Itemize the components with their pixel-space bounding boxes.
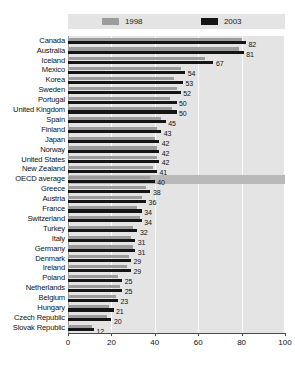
bar-2003 xyxy=(68,279,122,282)
x-tick-label-20: 20 xyxy=(107,338,116,347)
bar-2003 xyxy=(68,299,118,302)
bar-2003 xyxy=(68,249,135,252)
bar-2003 xyxy=(68,209,142,212)
category-label: Japan xyxy=(0,136,65,144)
x-axis-line xyxy=(68,333,285,334)
bar-row: 31 xyxy=(68,234,285,244)
category-label: Poland xyxy=(0,274,65,282)
category-label: OECD average xyxy=(0,175,65,183)
category-label: Sweden xyxy=(0,86,65,94)
bar-2003 xyxy=(68,120,166,123)
category-label: Norway xyxy=(0,146,65,154)
category-label: Austria xyxy=(0,195,65,203)
bar-row: 40 xyxy=(68,175,285,185)
x-tick-0 xyxy=(68,333,69,336)
category-label: Switzerland xyxy=(0,215,65,223)
bar-row: 43 xyxy=(68,125,285,135)
bar-2003 xyxy=(68,269,131,272)
bar-2003 xyxy=(68,328,94,331)
category-axis-labels: CanadaAustraliaIcelandMexicoKoreaSwedenP… xyxy=(0,36,65,333)
category-label: Czech Republic xyxy=(0,314,65,322)
bar-row: 34 xyxy=(68,214,285,224)
bar-2003 xyxy=(68,101,177,104)
x-tick-80 xyxy=(242,333,243,336)
category-label: Ireland xyxy=(0,264,65,272)
bar-row: 23 xyxy=(68,293,285,303)
bar-row: 81 xyxy=(68,46,285,56)
bar-2003 xyxy=(68,289,122,292)
bar-row: 82 xyxy=(68,36,285,46)
bar-row: 42 xyxy=(68,155,285,165)
bar-2003 xyxy=(68,41,246,44)
bar-row: 50 xyxy=(68,95,285,105)
bar-row: 38 xyxy=(68,185,285,195)
bar-row: 67 xyxy=(68,56,285,66)
category-label: Canada xyxy=(0,37,65,45)
bar-chart: 19982003 8281675453525050454342424241403… xyxy=(0,0,295,368)
bar-row: 42 xyxy=(68,135,285,145)
bar-2003 xyxy=(68,170,157,173)
bar-2003 xyxy=(68,259,131,262)
category-label: Australia xyxy=(0,47,65,55)
legend-swatch-2003 xyxy=(201,18,218,25)
x-tick-label-40: 40 xyxy=(150,338,159,347)
category-label: Belgium xyxy=(0,294,65,302)
bar-2003 xyxy=(68,318,111,321)
x-tick-60 xyxy=(198,333,199,336)
bar-2003 xyxy=(68,91,181,94)
bar-row: 12 xyxy=(68,323,285,333)
bar-2003 xyxy=(68,140,159,143)
bar-row: 54 xyxy=(68,66,285,76)
category-label: Finland xyxy=(0,126,65,134)
category-label: United Kingdom xyxy=(0,106,65,114)
category-label: Iceland xyxy=(0,57,65,65)
category-label: Denmark xyxy=(0,255,65,263)
legend-entry-2003: 2003 xyxy=(201,17,241,26)
bar-row: 25 xyxy=(68,284,285,294)
bar-2003 xyxy=(68,180,155,183)
chart-legend: 19982003 xyxy=(68,14,285,29)
x-tick-label-0: 0 xyxy=(66,338,70,347)
bar-row: 31 xyxy=(68,244,285,254)
category-label: Korea xyxy=(0,76,65,84)
category-label: Spain xyxy=(0,116,65,124)
bar-rows: 8281675453525050454342424241403836343432… xyxy=(68,36,285,333)
category-label: Turkey xyxy=(0,225,65,233)
bar-2003 xyxy=(68,150,159,153)
bar-row: 41 xyxy=(68,165,285,175)
bar-row: 21 xyxy=(68,303,285,313)
bar-2003 xyxy=(68,81,183,84)
legend-entry-1998: 1998 xyxy=(102,17,142,26)
bar-2003 xyxy=(68,71,185,74)
bar-row: 25 xyxy=(68,274,285,284)
bar-2003 xyxy=(68,308,114,311)
bar-row: 32 xyxy=(68,224,285,234)
category-label: Netherlands xyxy=(0,284,65,292)
bar-row: 34 xyxy=(68,204,285,214)
category-label: Portugal xyxy=(0,96,65,104)
x-tick-label-100: 100 xyxy=(278,338,291,347)
x-tick-label-60: 60 xyxy=(194,338,203,347)
legend-label-2003: 2003 xyxy=(224,17,241,26)
bar-2003 xyxy=(68,200,146,203)
bar-2003 xyxy=(68,160,159,163)
category-label: New Zealand xyxy=(0,165,65,173)
category-label: Mexico xyxy=(0,66,65,74)
x-tick-20 xyxy=(111,333,112,336)
bar-2003 xyxy=(68,61,213,64)
bar-row: 45 xyxy=(68,115,285,125)
bar-row: 36 xyxy=(68,194,285,204)
bar-row: 20 xyxy=(68,313,285,323)
category-label: France xyxy=(0,205,65,213)
category-label: United States xyxy=(0,156,65,164)
bar-row: 29 xyxy=(68,254,285,264)
bar-2003 xyxy=(68,110,177,113)
category-label: Germany xyxy=(0,245,65,253)
bar-row: 53 xyxy=(68,76,285,86)
legend-swatch-1998 xyxy=(102,18,119,25)
legend-label-1998: 1998 xyxy=(125,17,142,26)
bar-2003 xyxy=(68,219,142,222)
bar-row: 29 xyxy=(68,264,285,274)
x-tick-40 xyxy=(155,333,156,336)
category-label: Italy xyxy=(0,235,65,243)
